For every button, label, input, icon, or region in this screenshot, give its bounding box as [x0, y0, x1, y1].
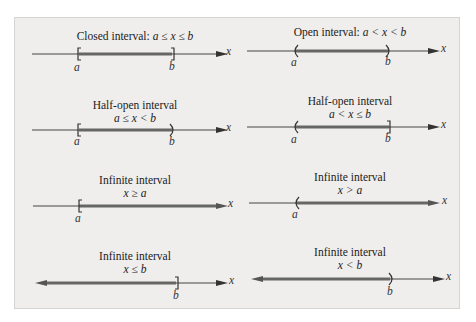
- infinite-lt-axis-x: x: [446, 270, 451, 282]
- infinite-lt-label-b: b: [387, 285, 393, 297]
- infinite-lt-number-line: [0, 0, 476, 322]
